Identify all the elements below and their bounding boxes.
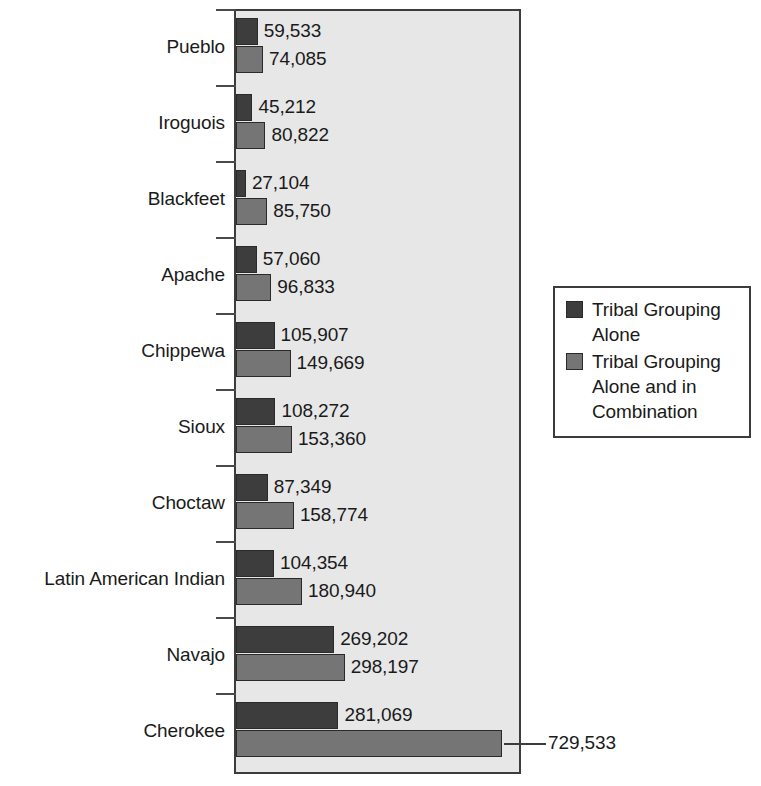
category-label: Sioux — [0, 416, 225, 438]
bar-value-label: 158,774 — [300, 503, 368, 527]
bar-group: 80,822 — [236, 122, 761, 149]
axis-tick — [216, 693, 236, 695]
category-bars: 27,10485,750 — [236, 170, 761, 228]
category-label: Chippewa — [0, 340, 225, 362]
bar-value-label: 105,907 — [281, 323, 349, 347]
category-bars: 104,354180,940 — [236, 550, 761, 608]
bar-value-label: 45,212 — [258, 95, 316, 119]
bar-group: 729,533 — [236, 730, 761, 757]
bar-alone — [236, 550, 274, 577]
bar-value-label: 269,202 — [340, 627, 408, 651]
axis-tick — [216, 237, 236, 239]
bar-group: 59,533 — [236, 18, 761, 45]
legend-item-alone: Tribal Grouping Alone — [566, 297, 739, 347]
bar-value-label: 108,272 — [281, 399, 349, 423]
bar-combination — [236, 730, 502, 757]
bar-combination — [236, 578, 302, 605]
bar-chart-figure: Pueblo59,53374,085Iroguois45,21280,822Bl… — [0, 0, 761, 786]
bar-alone — [236, 702, 338, 729]
chart-category-row: Cherokee281,069729,533 — [0, 693, 761, 769]
axis-tick — [216, 313, 236, 315]
bar-alone — [236, 18, 258, 45]
category-label: Navajo — [0, 644, 225, 666]
bar-alone — [236, 474, 268, 501]
bar-combination — [236, 198, 267, 225]
axis-tick — [216, 85, 236, 87]
chart-category-row: Pueblo59,53374,085 — [0, 9, 761, 85]
category-label: Blackfeet — [0, 188, 225, 210]
bar-value-label: 96,833 — [277, 275, 335, 299]
bar-value-label: 153,360 — [298, 427, 366, 451]
bar-group: 87,349 — [236, 474, 761, 501]
bar-combination — [236, 46, 263, 73]
category-label: Iroguois — [0, 112, 225, 134]
bar-alone — [236, 398, 275, 425]
bar-value-label: 80,822 — [271, 123, 329, 147]
chart-category-row: Latin American Indian104,354180,940 — [0, 541, 761, 617]
axis-tick — [216, 161, 236, 163]
axis-tick — [216, 541, 236, 543]
bar-value-label: 27,104 — [252, 171, 310, 195]
bar-group: 27,104 — [236, 170, 761, 197]
chart-category-row: Navajo269,202298,197 — [0, 617, 761, 693]
bar-value-label: 298,197 — [351, 655, 419, 679]
bar-combination — [236, 350, 291, 377]
bar-group: 298,197 — [236, 654, 761, 681]
category-label: Latin American Indian — [0, 568, 225, 590]
legend-label-alone: Tribal Grouping Alone — [592, 297, 739, 347]
bar-group: 158,774 — [236, 502, 761, 529]
category-bars: 87,349158,774 — [236, 474, 761, 532]
bar-alone — [236, 246, 257, 273]
chart-category-row: Choctaw87,349158,774 — [0, 465, 761, 541]
chart-legend: Tribal Grouping Alone Tribal Grouping Al… — [553, 286, 751, 438]
bar-group: 85,750 — [236, 198, 761, 225]
bar-value-label: 59,533 — [264, 19, 322, 43]
bar-group: 180,940 — [236, 578, 761, 605]
bar-alone — [236, 322, 275, 349]
category-label: Apache — [0, 264, 225, 286]
axis-tick — [216, 617, 236, 619]
legend-item-combination: Tribal Grouping Alone and in Combination — [566, 349, 739, 424]
bar-value-label: 729,533 — [548, 731, 616, 755]
axis-tick — [216, 9, 236, 11]
category-label: Choctaw — [0, 492, 225, 514]
category-label: Cherokee — [0, 720, 225, 742]
bar-group: 281,069 — [236, 702, 761, 729]
bar-value-label: 281,069 — [344, 703, 412, 727]
bar-combination — [236, 502, 294, 529]
bar-combination — [236, 274, 271, 301]
bar-group: 45,212 — [236, 94, 761, 121]
legend-swatch-combination-icon — [566, 353, 583, 370]
category-bars: 281,069729,533 — [236, 702, 761, 760]
legend-label-combination: Tribal Grouping Alone and in Combination — [592, 349, 739, 424]
bar-value-label: 104,354 — [280, 551, 348, 575]
chart-category-row: Blackfeet27,10485,750 — [0, 161, 761, 237]
category-bars: 45,21280,822 — [236, 94, 761, 152]
bar-value-label: 87,349 — [274, 475, 332, 499]
bar-alone — [236, 626, 334, 653]
bar-group: 104,354 — [236, 550, 761, 577]
bar-value-label: 74,085 — [269, 47, 327, 71]
bar-combination — [236, 426, 292, 453]
bar-combination — [236, 654, 345, 681]
category-label: Pueblo — [0, 36, 225, 58]
category-bars: 269,202298,197 — [236, 626, 761, 684]
bar-group: 57,060 — [236, 246, 761, 273]
bar-group: 74,085 — [236, 46, 761, 73]
value-leader-line — [504, 743, 546, 745]
bar-combination — [236, 122, 265, 149]
category-bars: 59,53374,085 — [236, 18, 761, 76]
bar-value-label: 85,750 — [273, 199, 331, 223]
bar-value-label: 57,060 — [263, 247, 321, 271]
chart-category-row: Iroguois45,21280,822 — [0, 85, 761, 161]
legend-swatch-alone-icon — [566, 301, 583, 318]
bar-alone — [236, 94, 252, 121]
bar-group: 269,202 — [236, 626, 761, 653]
bar-value-label: 149,669 — [297, 351, 365, 375]
axis-tick — [216, 465, 236, 467]
bar-alone — [236, 170, 246, 197]
bar-value-label: 180,940 — [308, 579, 376, 603]
axis-tick — [216, 389, 236, 391]
